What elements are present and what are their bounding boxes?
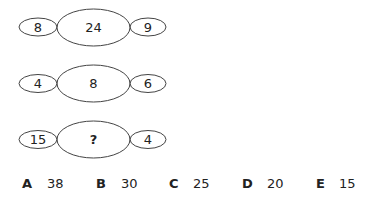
row-3-left-value: 15 [30,132,47,147]
row-2-center-value: 8 [89,76,97,91]
row-3-center-unknown: ? [90,132,98,147]
option-e-letter[interactable]: E [316,175,325,193]
option-e-value[interactable]: 15 [339,175,356,193]
option-b-value[interactable]: 30 [121,175,138,193]
puzzle-row-2: 4 8 6 [19,65,166,102]
row-2-left-value: 4 [34,76,42,91]
option-d-letter[interactable]: D [242,175,253,193]
option-a-value[interactable]: 38 [47,175,64,193]
option-b-letter[interactable]: B [96,175,106,193]
row-2-right-value: 6 [144,76,152,91]
puzzle-diagram: 8 24 9 4 8 6 15 ? 4 [0,0,368,203]
puzzle-row-1: 8 24 9 [19,9,166,46]
option-d-value[interactable]: 20 [267,175,284,193]
answer-options: A 38 B 30 C 25 D 20 E 15 [0,175,368,195]
row-1-center-value: 24 [85,20,102,35]
option-c-letter[interactable]: C [169,175,179,193]
row-1-right-value: 9 [144,20,152,35]
option-a-letter[interactable]: A [22,175,32,193]
option-c-value[interactable]: 25 [193,175,210,193]
row-1-left-value: 8 [34,20,42,35]
row-3-right-value: 4 [144,132,152,147]
puzzle-row-3: 15 ? 4 [19,121,166,158]
